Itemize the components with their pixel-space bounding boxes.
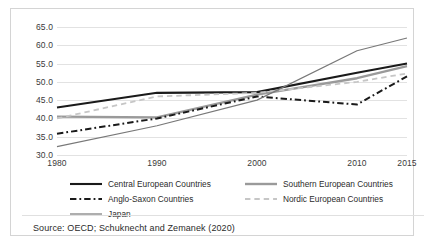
legend-swatch bbox=[244, 194, 278, 204]
gridline bbox=[57, 155, 407, 156]
source-note: Source: OECD; Schuknecht and Zemanek (20… bbox=[33, 223, 235, 233]
y-tick-label: 55.0 bbox=[36, 59, 53, 69]
legend-swatch bbox=[69, 209, 103, 219]
figure-frame: 30.035.040.045.050.055.060.065.0 1980199… bbox=[10, 8, 414, 236]
legend-label: Nordic European Countries bbox=[283, 194, 383, 204]
legend-label: Anglo-Saxon Countries bbox=[108, 194, 193, 204]
legend-item[interactable]: Central European Countries bbox=[69, 179, 211, 189]
legend-swatch bbox=[69, 179, 103, 189]
y-tick-label: 65.0 bbox=[36, 22, 53, 32]
legend-swatch bbox=[69, 194, 103, 204]
y-tick-label: 40.0 bbox=[36, 113, 53, 123]
x-tick-label: 2015 bbox=[397, 158, 416, 168]
legend-item[interactable]: Anglo-Saxon Countries bbox=[69, 194, 193, 204]
x-tick-label: 2000 bbox=[247, 158, 266, 168]
y-tick-label: 45.0 bbox=[36, 95, 53, 105]
footer-divider bbox=[22, 215, 424, 216]
plot-area: 30.035.040.045.050.055.060.065.0 1980199… bbox=[57, 27, 407, 155]
series-line bbox=[57, 73, 407, 118]
legend-item[interactable]: Nordic European Countries bbox=[244, 194, 383, 204]
x-tick-label: 1980 bbox=[47, 158, 66, 168]
chart-legend: Central European CountriesSouthern Europ… bbox=[69, 179, 399, 219]
legend-item[interactable]: Japan bbox=[69, 209, 131, 219]
legend-label: Japan bbox=[108, 209, 131, 219]
series-line bbox=[57, 76, 407, 133]
legend-label: Southern European Countries bbox=[283, 179, 393, 189]
legend-label: Central European Countries bbox=[108, 179, 211, 189]
x-tick-label: 1990 bbox=[147, 158, 166, 168]
legend-item[interactable]: Southern European Countries bbox=[244, 179, 393, 189]
y-tick-label: 50.0 bbox=[36, 77, 53, 87]
series-lines bbox=[57, 27, 407, 155]
chart-area: 30.035.040.045.050.055.060.065.0 1980199… bbox=[23, 17, 413, 169]
y-tick-label: 60.0 bbox=[36, 40, 53, 50]
x-tick-label: 2010 bbox=[347, 158, 366, 168]
y-tick-label: 35.0 bbox=[36, 132, 53, 142]
figure-container: 30.035.040.045.050.055.060.065.0 1980199… bbox=[0, 0, 424, 244]
legend-swatch bbox=[244, 179, 278, 189]
